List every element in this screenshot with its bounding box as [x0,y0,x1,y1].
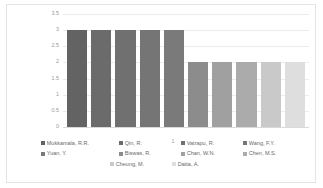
gridline [63,127,309,128]
legend-item-label: Qin, R. [125,141,142,147]
y-tick-label: 0.5 [52,108,60,113]
bar[interactable] [140,30,160,127]
legend-item-label: Wang, F.Y. [249,141,275,147]
legend-swatch-icon [243,141,247,145]
y-tick-label: 0 [56,124,59,129]
legend-item-label: Datta, A. [178,162,199,168]
legend-item-label: Chan, W.N. [187,151,215,157]
legend-item-label: Biswas, R. [125,151,151,157]
legend-row: Cheung, M.Datta, A. [37,159,303,170]
bar-slot [210,14,234,127]
legend-item[interactable]: Vatrapu, R. [179,141,241,147]
legend-item[interactable]: Biswas, R. [117,151,179,157]
gridlines-and-bars [63,14,309,127]
bar-slot [234,14,258,127]
legend-row: Mukkamala, R.R.Qin, R.Vatrapu, R.Wang, F… [37,138,303,149]
legend-item[interactable]: Datta, A. [170,162,232,168]
legend-item[interactable]: Mukkamala, R.R. [39,141,117,147]
bar-slot [162,14,186,127]
bar-slot [186,14,210,127]
legend-swatch-icon [41,152,45,156]
y-tick-label: 2 [56,60,59,65]
bar[interactable] [285,62,305,127]
legend-swatch-icon [119,141,123,145]
bar[interactable] [212,62,232,127]
legend-row: Yuan, Y.Biswas, R.Chan, W.N.Chen, M.S. [37,149,303,160]
legend-item-label: Chen, M.S. [249,151,277,157]
legend-swatch-icon [181,152,185,156]
legend-item[interactable]: Chen, M.S. [241,151,301,157]
chart-container: 3.532.521.510.50 1 Mukkamala, R.R.Qin, R… [6,4,316,183]
legend-item-label: Cheung, M. [116,162,144,168]
chart-legend: Mukkamala, R.R.Qin, R.Vatrapu, R.Wang, F… [37,138,303,170]
legend-item-label: Mukkamala, R.R. [47,141,89,147]
plot-area: 3.532.521.510.50 [37,14,309,127]
legend-swatch-icon [243,152,247,156]
legend-swatch-icon [119,152,123,156]
y-tick-label: 1.5 [52,76,60,81]
y-tick-label: 2.5 [52,44,60,49]
bar[interactable] [261,62,281,127]
bar-slot [65,14,89,127]
legend-swatch-icon [181,141,185,145]
legend-item[interactable]: Wang, F.Y. [241,141,301,147]
bar-slot [259,14,283,127]
bar[interactable] [91,30,111,127]
legend-swatch-icon [172,162,176,166]
bar[interactable] [115,30,135,127]
bar-slot [283,14,307,127]
legend-swatch-icon [41,141,45,145]
legend-item-label: Vatrapu, R. [187,141,214,147]
legend-item[interactable]: Cheung, M. [108,162,170,168]
bars-group [63,14,309,127]
bar[interactable] [67,30,87,127]
legend-item[interactable]: Qin, R. [117,141,179,147]
bar-slot [138,14,162,127]
bar[interactable] [188,62,208,127]
bar[interactable] [164,30,184,127]
legend-item[interactable]: Yuan, Y. [39,151,117,157]
y-axis: 3.532.521.510.50 [37,14,61,127]
y-tick-label: 1 [56,92,59,97]
y-tick-label: 3 [56,27,59,32]
bar-slot [113,14,137,127]
legend-item-label: Yuan, Y. [47,151,67,157]
legend-item[interactable]: Chan, W.N. [179,151,241,157]
y-tick-label: 3.5 [52,11,60,16]
bar-slot [89,14,113,127]
legend-swatch-icon [110,162,114,166]
bar[interactable] [236,62,256,127]
